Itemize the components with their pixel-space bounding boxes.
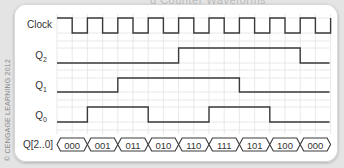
- bus-value: 000: [307, 140, 323, 151]
- bus-label: Q[2..0]: [23, 139, 53, 150]
- bus-value: 001: [95, 140, 111, 151]
- q1-waveform: [57, 78, 330, 92]
- bus-value: 110: [186, 140, 201, 151]
- bus-value: 101: [247, 140, 263, 151]
- bus-value: 000: [64, 140, 80, 151]
- q1-label: Q1: [35, 80, 47, 93]
- timing-diagram: Clock Q2 Q1 Q0 Q[2..0] 00000101101011011…: [0, 0, 344, 168]
- bus-value: 100: [277, 140, 293, 151]
- clock-waveform: [57, 18, 331, 33]
- bus-value: 011: [125, 140, 140, 151]
- bus-value: 010: [155, 140, 171, 151]
- bus-value: 111: [217, 140, 231, 151]
- q0-waveform: [57, 107, 330, 122]
- q0-label: Q0: [35, 110, 47, 123]
- q2-label: Q2: [35, 50, 47, 63]
- bus-waveform: 000001011010110111101100000: [57, 138, 331, 151]
- q2-waveform: [57, 48, 330, 63]
- clock-label: Clock: [27, 19, 53, 30]
